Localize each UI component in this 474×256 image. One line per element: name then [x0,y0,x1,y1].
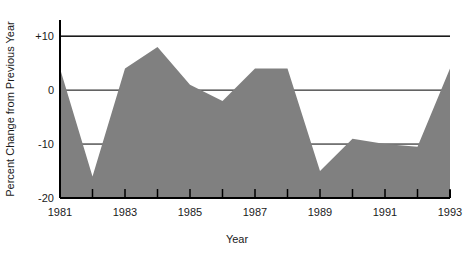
x-tick-label: 1987 [243,206,267,218]
y-axis-title: Percent Change from Previous Year [4,21,16,197]
y-tick-label: -10 [38,138,54,150]
y-tick-label: -20 [38,192,54,204]
chart-canvas: 1981198319851987198919911993 +100-10-20 … [0,0,474,256]
x-axis-title: Year [226,233,249,245]
x-tick-label: 1991 [373,206,397,218]
x-tick-labels: 1981198319851987198919911993 [48,206,462,218]
x-tick-label: 1985 [178,206,202,218]
x-tick-label: 1993 [438,206,462,218]
y-tick-label: 0 [48,84,54,96]
chart-page: 1981198319851987198919911993 +100-10-20 … [0,0,474,256]
y-tick-labels: +100-10-20 [35,30,54,204]
x-tick-label: 1989 [308,206,332,218]
area-chart-figure: 1981198319851987198919911993 +100-10-20 … [0,0,474,256]
y-tick-label: +10 [35,30,54,42]
x-tick-label: 1983 [113,206,137,218]
x-tick-label: 1981 [48,206,72,218]
